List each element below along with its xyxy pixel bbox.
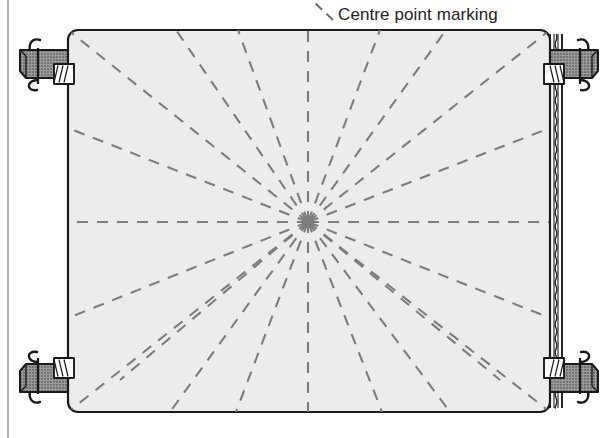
panel-right-hem <box>550 34 562 408</box>
hem-stitch-wave <box>555 34 557 408</box>
centre-point-marking-leader <box>314 2 333 20</box>
technical-diagram-figure: Centre point marking <box>0 0 614 438</box>
clamp-wire-loop-bottom <box>29 80 38 90</box>
annotation-leader-group <box>314 2 333 20</box>
clamp-wire-loop-bottom <box>580 80 589 90</box>
clamp-wire-loop-bottom <box>29 352 38 362</box>
corner-clamp-top-right <box>544 39 598 90</box>
corner-clamp-top-left <box>20 39 74 90</box>
clamp-wire-loop-bottom <box>580 352 589 362</box>
corner-clamp-bottom-left <box>20 352 74 403</box>
centre-point-marking-label: Centre point marking <box>338 6 498 23</box>
corner-clamp-bottom-right <box>544 352 598 403</box>
diagram-canvas <box>0 0 614 438</box>
